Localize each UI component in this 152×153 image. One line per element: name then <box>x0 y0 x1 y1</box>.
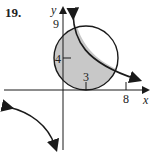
diagram: 19. y 9 4 3 8 x <box>0 0 152 153</box>
x-axis-label: x <box>143 94 148 106</box>
tick-label-4: 4 <box>55 53 61 65</box>
graph-figure <box>0 0 152 153</box>
tick-label-3: 3 <box>83 71 89 83</box>
shaded-region <box>50 0 126 100</box>
tick-label-8: 8 <box>123 93 129 105</box>
y-axis-label: y <box>51 4 56 16</box>
tick-label-9: 9 <box>53 18 59 30</box>
problem-number: 19. <box>5 6 21 19</box>
hyperbola-lower-branch <box>8 107 55 146</box>
